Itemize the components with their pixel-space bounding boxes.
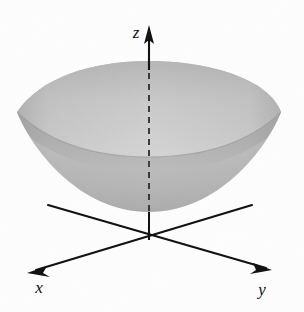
paraboloid-surface (17, 58, 281, 216)
paraboloid-figure: z x y (0, 0, 304, 312)
x-axis-line (36, 205, 252, 270)
surface-texture (17, 58, 281, 216)
x-axis-label: x (34, 278, 43, 297)
z-axis-label: z (132, 23, 140, 42)
y-axis-line (48, 205, 266, 268)
y-axis-label: y (256, 280, 266, 299)
figure-canvas: z x y (0, 0, 304, 312)
